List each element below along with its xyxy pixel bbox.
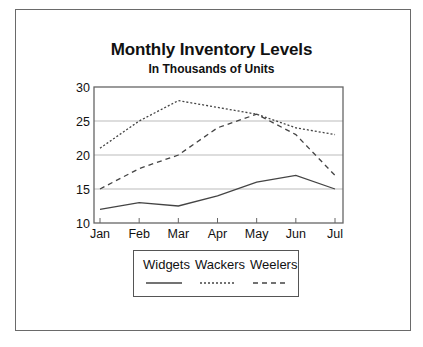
x-tick-label: Jun (286, 227, 306, 241)
x-axis-ticks: JanFebMarAprMayJunJul (90, 218, 343, 241)
series-line-wackers (100, 101, 335, 149)
x-tick-label: Apr (208, 227, 227, 241)
y-tick-label: 10 (76, 217, 90, 231)
legend: Widgets Wackers Weelers (133, 250, 299, 297)
legend-swatches (134, 251, 300, 298)
y-axis-ticks: 1015202530 (76, 81, 90, 231)
y-tick-label: 20 (76, 149, 90, 163)
y-tick-label: 30 (76, 81, 90, 95)
series-line-widgets (100, 175, 335, 209)
x-tick-label: Jul (327, 227, 343, 241)
x-tick-label: May (245, 227, 269, 241)
x-tick-label: Jan (90, 227, 110, 241)
x-tick-label: Feb (128, 227, 150, 241)
y-tick-label: 15 (76, 183, 90, 197)
y-tick-label: 25 (76, 115, 90, 129)
series-line-weelers (100, 114, 335, 189)
x-tick-label: Mar (168, 227, 190, 241)
